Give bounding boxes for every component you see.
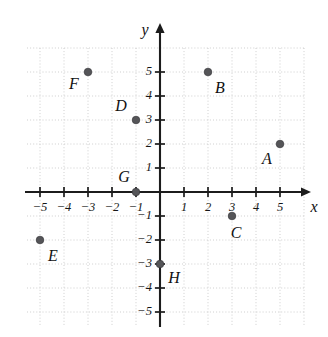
x-tick-label: −3 bbox=[81, 200, 96, 214]
point-label-e: E bbox=[47, 247, 58, 264]
y-tick-label: −5 bbox=[137, 304, 152, 318]
point-label-a: A bbox=[261, 150, 272, 167]
y-axis-name: y bbox=[139, 21, 149, 39]
point-label-h: H bbox=[167, 269, 181, 286]
point-label-c: C bbox=[231, 224, 242, 241]
data-point-e bbox=[36, 236, 44, 244]
y-tick-label: −4 bbox=[137, 280, 152, 294]
point-label-d: D bbox=[114, 97, 127, 114]
x-tick-label: 5 bbox=[277, 200, 283, 214]
y-tick-label: −3 bbox=[137, 256, 152, 270]
x-tick-label: 2 bbox=[205, 200, 211, 214]
point-label-g: G bbox=[118, 168, 130, 185]
axis-names: xy bbox=[139, 21, 317, 215]
x-tick-label: −4 bbox=[57, 200, 72, 214]
y-tick-label: 1 bbox=[146, 160, 152, 174]
x-tick-label: 3 bbox=[228, 200, 235, 214]
y-tick-label: −1 bbox=[137, 208, 152, 222]
x-tick-label: 1 bbox=[181, 200, 187, 214]
y-tick-label: −2 bbox=[137, 232, 152, 246]
data-point-h bbox=[156, 260, 164, 268]
x-tick-label: −5 bbox=[33, 200, 48, 214]
data-point-a bbox=[276, 140, 284, 148]
data-point-c bbox=[228, 212, 236, 220]
point-label-b: B bbox=[215, 79, 225, 96]
y-tick-label: 2 bbox=[146, 136, 152, 150]
coordinate-plane-figure: −5−4−3−2−11234554321−1−2−3−4−5 xy ABCDEF… bbox=[0, 0, 328, 337]
x-tick-label: −2 bbox=[105, 200, 120, 214]
x-tick-label: 4 bbox=[253, 200, 259, 214]
x-axis-arrowhead bbox=[301, 187, 311, 196]
data-point-f bbox=[84, 68, 92, 76]
coordinate-plane-canvas: −5−4−3−2−11234554321−1−2−3−4−5 xy ABCDEF… bbox=[0, 0, 328, 337]
point-label-f: F bbox=[68, 75, 79, 92]
data-point-d bbox=[132, 116, 140, 124]
y-tick-label: 3 bbox=[145, 112, 152, 126]
x-axis-name: x bbox=[309, 198, 317, 215]
data-point-b bbox=[204, 68, 212, 76]
y-tick-label: 5 bbox=[146, 64, 152, 78]
y-axis-arrowhead bbox=[155, 23, 164, 33]
y-tick-label: 4 bbox=[146, 88, 152, 102]
data-point-g bbox=[132, 188, 140, 196]
